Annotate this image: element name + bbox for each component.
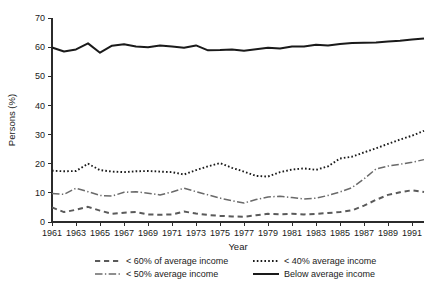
y-axis-title: Persons (%) <box>6 94 17 146</box>
legend-label: < 40% average income <box>284 256 376 266</box>
x-axis-ticks: 1961196319651967196919711973197519771979… <box>42 222 422 238</box>
y-tick-label: 30 <box>35 130 45 140</box>
chart-container: 010203040506070 196119631965196719691971… <box>0 0 433 296</box>
line-chart: 010203040506070 196119631965196719691971… <box>0 0 433 296</box>
x-tick-label: 1983 <box>306 228 326 238</box>
legend-label: Below average income <box>284 269 375 279</box>
series-line <box>52 160 424 203</box>
x-tick-label: 1963 <box>66 228 86 238</box>
y-axis-ticks: 010203040506070 <box>35 13 52 227</box>
y-tick-label: 0 <box>40 217 45 227</box>
x-tick-label: 1977 <box>234 228 254 238</box>
x-tick-label: 1973 <box>186 228 206 238</box>
x-tick-label: 1971 <box>162 228 182 238</box>
x-tick-label: 1985 <box>330 228 350 238</box>
data-series-group <box>52 38 424 216</box>
y-tick-label: 20 <box>35 159 45 169</box>
series-line <box>52 190 424 217</box>
legend-label: < 60% of average income <box>126 256 228 266</box>
y-tick-label: 60 <box>35 42 45 52</box>
series-line <box>52 131 424 177</box>
y-tick-label: 70 <box>35 13 45 23</box>
x-tick-label: 1965 <box>90 228 110 238</box>
x-tick-label: 1987 <box>354 228 374 238</box>
series-line <box>52 38 424 52</box>
x-tick-label: 1969 <box>138 228 158 238</box>
legend-label: < 50% average income <box>126 269 218 279</box>
x-tick-label: 1979 <box>258 228 278 238</box>
x-tick-label: 1981 <box>282 228 302 238</box>
x-tick-label: 1967 <box>114 228 134 238</box>
x-tick-label: 1961 <box>42 228 62 238</box>
y-tick-label: 40 <box>35 101 45 111</box>
y-tick-label: 50 <box>35 71 45 81</box>
chart-legend: < 60% of average income< 40% average inc… <box>95 256 376 279</box>
x-axis-title: Year <box>228 241 247 252</box>
x-tick-label: 1991 <box>402 228 422 238</box>
x-tick-label: 1989 <box>378 228 398 238</box>
y-tick-label: 10 <box>35 188 45 198</box>
x-tick-label: 1975 <box>210 228 230 238</box>
